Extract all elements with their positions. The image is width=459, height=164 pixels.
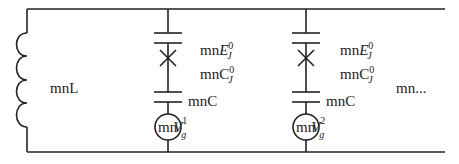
source-label-2: mnV2g [296, 115, 325, 140]
coupling-capacitor-label-2: mnC [326, 93, 355, 109]
junction-energy-label-2: mnE0J [340, 40, 373, 61]
continuation-label: mn... [396, 80, 426, 96]
inductor-label: mnL [50, 80, 78, 96]
junction-capacitance-label-2: mnC0J [340, 64, 374, 85]
source-label-1: mnV1g [158, 115, 187, 140]
junction-capacitance-label-1: mnC0J [200, 64, 234, 85]
coupling-capacitor-label-1: mnC [188, 93, 217, 109]
inductor-icon [17, 9, 28, 152]
circuit-diagram: mnL mnE0J mnC0J mnC mnV1g [0, 0, 459, 164]
junction-energy-label-1: mnE0J [200, 40, 233, 61]
